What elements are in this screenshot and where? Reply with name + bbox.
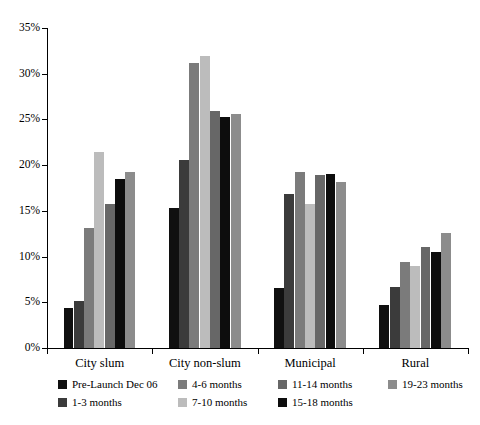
y-axis-tick <box>42 211 48 212</box>
y-axis-tick <box>42 119 48 120</box>
y-axis-tick <box>42 348 48 349</box>
bar-chart: 0%5%10%15%20%25%30%35% City slumCity non… <box>0 0 480 425</box>
legend-item[interactable]: 19-23 months <box>388 378 463 390</box>
legend-item[interactable]: 4-6 months <box>178 378 242 390</box>
legend-swatch-icon <box>58 398 67 407</box>
bar <box>64 308 74 348</box>
legend-item[interactable]: 7-10 months <box>178 396 247 408</box>
legend-swatch-icon <box>278 398 287 407</box>
bar <box>295 172 305 348</box>
bar <box>390 287 400 348</box>
legend-swatch-icon <box>178 398 187 407</box>
bar <box>410 266 420 348</box>
bar <box>115 179 125 348</box>
bar <box>210 111 220 348</box>
legend-label: 15-18 months <box>292 396 353 408</box>
x-axis-tick <box>152 348 153 354</box>
bar <box>274 288 284 348</box>
x-axis-category-label: City non-slum <box>152 356 257 370</box>
chart-legend: Pre-Launch Dec 061-3 months4-6 months7-1… <box>0 374 480 420</box>
legend-label: 1-3 months <box>72 396 122 408</box>
bar <box>284 194 294 348</box>
legend-item[interactable]: 1-3 months <box>58 396 122 408</box>
legend-swatch-icon <box>58 380 67 389</box>
legend-swatch-icon <box>178 380 187 389</box>
legend-label: 19-23 months <box>402 378 463 390</box>
y-axis-tick <box>42 74 48 75</box>
legend-label: 7-10 months <box>192 396 247 408</box>
bar-group <box>274 0 346 348</box>
legend-item[interactable]: Pre-Launch Dec 06 <box>58 378 158 390</box>
bar <box>84 228 94 348</box>
bar <box>94 152 104 348</box>
bar <box>379 305 389 348</box>
bar-group <box>169 0 241 348</box>
legend-item[interactable]: 15-18 months <box>278 396 353 408</box>
y-axis-tick <box>42 165 48 166</box>
bar <box>441 233 451 348</box>
bar <box>189 63 199 348</box>
bars-layer <box>0 0 480 348</box>
x-axis-tick <box>468 348 469 354</box>
legend-label: 4-6 months <box>192 378 242 390</box>
bar <box>231 114 241 348</box>
bar <box>315 175 325 348</box>
bar <box>326 174 336 348</box>
x-axis-category-label: Municipal <box>258 356 363 370</box>
x-axis-tick <box>258 348 259 354</box>
legend-label: Pre-Launch Dec 06 <box>72 378 158 390</box>
bar-group <box>379 0 451 348</box>
bar <box>305 204 315 348</box>
bar <box>220 117 230 348</box>
legend-swatch-icon <box>388 380 397 389</box>
x-axis-tick <box>363 348 364 354</box>
legend-swatch-icon <box>278 380 287 389</box>
y-axis-tick <box>42 28 48 29</box>
bar <box>74 301 84 348</box>
bar <box>179 160 189 348</box>
x-axis-category-label: City slum <box>47 356 152 370</box>
bar-group <box>64 0 136 348</box>
bar <box>336 182 346 348</box>
plot-area: 0%5%10%15%20%25%30%35% City slumCity non… <box>0 0 480 370</box>
bar <box>125 172 135 348</box>
bar <box>200 56 210 348</box>
bar <box>169 208 179 348</box>
bar <box>431 252 441 348</box>
bar <box>421 247 431 348</box>
y-axis-tick <box>42 302 48 303</box>
legend-label: 11-14 months <box>292 378 352 390</box>
x-axis-category-label: Rural <box>363 356 468 370</box>
bar <box>105 204 115 348</box>
y-axis-tick <box>42 257 48 258</box>
legend-item[interactable]: 11-14 months <box>278 378 352 390</box>
bar <box>400 262 410 348</box>
